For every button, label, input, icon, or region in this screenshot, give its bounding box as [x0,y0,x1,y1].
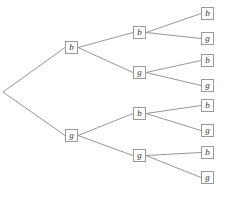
tree-edge [146,156,201,178]
edges-group [3,14,201,178]
tree-node-n112: g [201,32,214,45]
tree-node-n111: b [201,7,214,20]
tree-edge [146,114,201,131]
tree-node-n122: g [201,79,214,92]
tree-node-n121: b [201,54,214,67]
tree-node-n211: b [201,99,214,112]
tree-node-n11: b [133,26,146,39]
tree-edge [78,114,133,136]
tree-edge [78,33,133,48]
probability-tree-diagram: bgbgbgbgbgbgbg [0,0,226,197]
tree-edge [146,14,201,33]
tree-node-n222: g [201,171,214,184]
tree-edges-layer [0,0,226,197]
tree-node-n221: b [201,146,214,159]
tree-node-n12: g [133,66,146,79]
tree-edge [146,73,201,86]
tree-edge [146,153,201,156]
tree-edge [78,48,133,73]
tree-node-n1: b [65,41,78,54]
tree-node-n2: g [65,129,78,142]
tree-edge [3,48,65,93]
tree-node-n22: g [133,149,146,162]
tree-edge [3,92,65,136]
tree-edge [78,136,133,156]
tree-node-n21: b [133,107,146,120]
tree-edge [146,106,201,114]
tree-edge [146,33,201,39]
tree-node-n212: g [201,124,214,137]
tree-edge [146,61,201,73]
